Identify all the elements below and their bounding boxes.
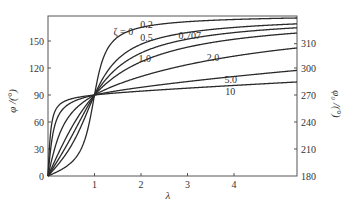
x-tick-label: 4 [232,179,237,190]
y-right-tick-label: 240 [301,117,316,128]
phase-curves [48,18,297,176]
y-tick-label: 0 [39,171,44,182]
y-axis-left-title: φ /(°) [6,89,19,113]
y-tick-label: 120 [29,63,44,74]
curve-label: 0.5 [140,32,153,43]
phase-frequency-chart: 1234 0306090120150 180210240270300310 ζ … [0,0,343,209]
y-right-tick-label: 300 [301,63,316,74]
phase-curve [48,82,297,176]
y-right-tick-label: 180 [301,171,316,182]
x-axis-title: λ [165,189,171,201]
x-tick-label: 2 [139,179,144,190]
y-tick-label: 30 [34,144,44,155]
curve-label: ζ = 0 [113,26,133,38]
y-tick-label: 150 [29,36,44,47]
phase-curve [48,70,297,176]
y-right-tick-label: 310 [301,38,316,49]
y-right-tick-label: 210 [301,144,316,155]
y-tick-label: 90 [34,90,44,101]
x-tick-label: 3 [185,179,190,190]
phase-curve [48,48,297,176]
curve-label: 10 [225,86,235,97]
curve-label: 0.2 [140,19,153,30]
y-axis-right-title: φ₀ /(°) [330,90,343,118]
curve-label: 0.707 [179,30,202,41]
curve-label: 1.0 [138,53,151,64]
phase-curve [48,33,297,176]
curve-label: 5.0 [224,74,237,85]
y-tick-label: 60 [34,117,44,128]
y-right-tick-label: 270 [301,90,316,101]
x-tick-label: 1 [92,179,97,190]
phase-curve [48,28,297,176]
curve-label: 2.0 [207,52,220,63]
